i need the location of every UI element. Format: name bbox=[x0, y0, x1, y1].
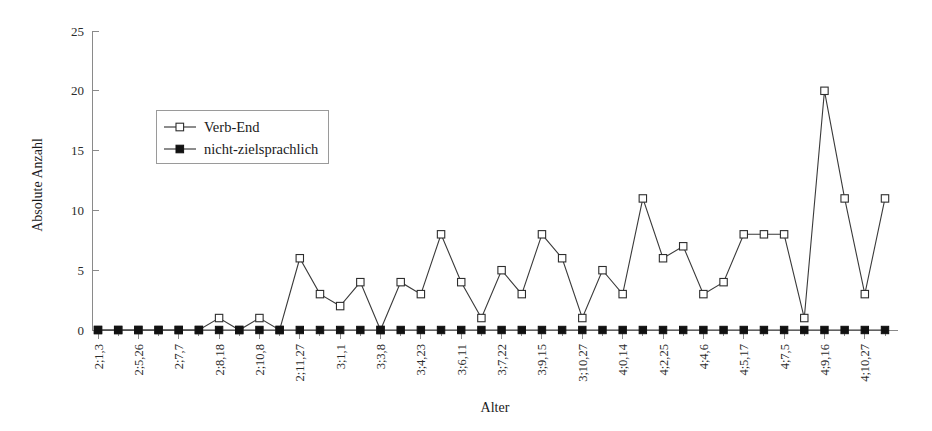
data-point-marker bbox=[458, 326, 465, 333]
x-tick-label: 4;4,6 bbox=[697, 344, 711, 369]
data-point-marker bbox=[498, 326, 505, 333]
data-point-marker bbox=[458, 278, 465, 285]
y-tick-label: 5 bbox=[78, 263, 85, 278]
chart-container: Absolute Anzahl 0510152025 2;1,32;5,262;… bbox=[0, 0, 932, 431]
x-tick-label: 2;1,3 bbox=[92, 344, 106, 369]
data-point-marker bbox=[659, 255, 666, 262]
data-point-marker bbox=[780, 231, 787, 238]
data-point-marker bbox=[780, 326, 787, 333]
y-tick-label: 25 bbox=[71, 24, 84, 39]
data-point-marker bbox=[256, 314, 263, 321]
data-point-marker bbox=[680, 243, 687, 250]
x-tick-label: 4;0,14 bbox=[616, 343, 630, 375]
y-tick-label: 15 bbox=[71, 143, 84, 158]
legend-label-0: Verb-End bbox=[204, 119, 260, 135]
data-point-marker bbox=[579, 326, 586, 333]
x-axis-title: Alter bbox=[481, 400, 510, 415]
data-point-marker bbox=[720, 278, 727, 285]
data-point-marker bbox=[700, 326, 707, 333]
data-point-marker bbox=[155, 326, 162, 333]
y-tick-label: 10 bbox=[71, 203, 84, 218]
data-point-marker bbox=[175, 326, 182, 333]
x-tick-label: 3;3,8 bbox=[374, 344, 388, 369]
x-tick-label: 2;5,26 bbox=[132, 344, 146, 376]
data-point-marker bbox=[821, 87, 828, 94]
data-point-marker bbox=[336, 326, 343, 333]
x-tick-label: 3;7,22 bbox=[495, 344, 509, 376]
data-point-marker bbox=[377, 326, 384, 333]
data-point-marker bbox=[740, 231, 747, 238]
data-point-marker bbox=[256, 326, 263, 333]
data-point-marker bbox=[861, 290, 868, 297]
data-point-marker bbox=[357, 278, 364, 285]
data-point-marker bbox=[619, 290, 626, 297]
x-tick-label: 4;5,17 bbox=[737, 344, 751, 376]
data-point-marker bbox=[296, 255, 303, 262]
data-point-marker bbox=[417, 326, 424, 333]
data-point-marker bbox=[760, 231, 767, 238]
y-axis-title: Absolute Anzahl bbox=[30, 138, 45, 232]
data-point-marker bbox=[801, 326, 808, 333]
data-point-marker bbox=[518, 290, 525, 297]
y-tick-label: 20 bbox=[71, 83, 84, 98]
data-point-marker bbox=[357, 326, 364, 333]
series-nicht-zielsprachlich bbox=[94, 326, 888, 333]
data-point-marker bbox=[478, 314, 485, 321]
x-tick-label: 4;9,16 bbox=[818, 344, 832, 376]
data-point-marker bbox=[680, 326, 687, 333]
x-axis: 2;1,32;5,262;7,72;8,182;10,82;11,273;1,1… bbox=[92, 330, 899, 382]
data-point-marker bbox=[760, 326, 767, 333]
data-point-marker bbox=[417, 290, 424, 297]
data-point-marker bbox=[801, 314, 808, 321]
x-tick-label: 3;9,15 bbox=[535, 344, 549, 376]
data-point-marker bbox=[215, 314, 222, 321]
data-point-marker bbox=[720, 326, 727, 333]
open-square-icon bbox=[176, 123, 184, 131]
chart-legend: Verb-End nicht-zielsprachlich bbox=[156, 110, 328, 163]
data-point-marker bbox=[538, 231, 545, 238]
data-point-marker bbox=[881, 195, 888, 202]
data-point-marker bbox=[316, 326, 323, 333]
x-tick-label: 3;6,11 bbox=[455, 344, 469, 375]
legend-label-1: nicht-zielsprachlich bbox=[204, 141, 319, 157]
x-tick-label: 2;7,7 bbox=[172, 344, 186, 369]
data-point-marker bbox=[195, 326, 202, 333]
y-tick-group: 0510152025 bbox=[71, 24, 99, 338]
x-tick-label: 4;10,27 bbox=[858, 344, 872, 382]
data-point-marker bbox=[478, 326, 485, 333]
data-point-marker bbox=[599, 267, 606, 274]
data-point-marker bbox=[659, 326, 666, 333]
x-tick-label: 2;8,18 bbox=[213, 344, 227, 376]
data-point-marker bbox=[861, 326, 868, 333]
x-tick-label: 2;10,8 bbox=[253, 344, 267, 376]
data-point-marker bbox=[821, 326, 828, 333]
data-point-marker bbox=[397, 278, 404, 285]
y-tick-label: 0 bbox=[78, 323, 85, 338]
x-tick-label: 3;4,23 bbox=[414, 344, 428, 376]
data-point-marker bbox=[881, 326, 888, 333]
data-point-marker bbox=[558, 326, 565, 333]
data-point-marker bbox=[498, 267, 505, 274]
line-chart: Absolute Anzahl 0510152025 2;1,32;5,262;… bbox=[0, 0, 932, 431]
data-point-marker bbox=[619, 326, 626, 333]
data-point-marker bbox=[841, 195, 848, 202]
data-point-marker bbox=[639, 195, 646, 202]
filled-square-icon bbox=[176, 145, 184, 153]
data-point-marker bbox=[740, 326, 747, 333]
x-tick-label: 3;10,27 bbox=[576, 344, 590, 382]
x-tick-label: 3;1,1 bbox=[334, 344, 348, 369]
data-point-marker bbox=[538, 326, 545, 333]
data-point-marker bbox=[437, 231, 444, 238]
data-point-marker bbox=[558, 255, 565, 262]
data-point-marker bbox=[579, 314, 586, 321]
x-tick-label: 4;2,25 bbox=[657, 344, 671, 376]
data-point-marker bbox=[397, 326, 404, 333]
data-point-marker bbox=[135, 326, 142, 333]
data-point-marker bbox=[599, 326, 606, 333]
data-point-marker bbox=[215, 326, 222, 333]
x-tick-label: 2;11,27 bbox=[293, 344, 307, 381]
data-point-marker bbox=[296, 326, 303, 333]
data-point-marker bbox=[236, 326, 243, 333]
y-axis: 0510152025 bbox=[71, 24, 99, 338]
data-point-marker bbox=[437, 326, 444, 333]
